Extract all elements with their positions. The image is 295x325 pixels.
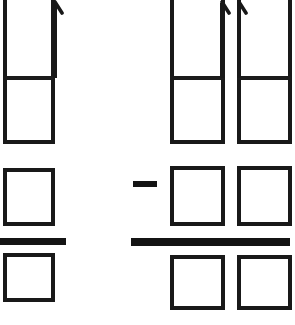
blank-box-right-col1-top[interactable] — [172, 0, 223, 78]
blank-box-left-col1-fourth[interactable] — [5, 255, 53, 300]
blank-box-right-col1-second[interactable] — [172, 78, 223, 142]
diagram-canvas — [0, 0, 295, 325]
blank-box-right-col1-third[interactable] — [172, 168, 223, 224]
left-group — [0, 0, 66, 300]
blank-box-left-col1-top[interactable] — [5, 0, 53, 78]
right-fraction-bar — [131, 238, 290, 246]
blank-box-left-col1-second[interactable] — [5, 78, 53, 142]
minus-sign-icon — [133, 181, 157, 187]
up-arrow-right-col1 — [222, 2, 229, 78]
right-column-1 — [170, 0, 229, 308]
right-column-2 — [237, 0, 291, 308]
expression-diagram-svg — [0, 0, 295, 325]
left-fraction-bar — [0, 238, 66, 245]
blank-box-right-col1-fourth[interactable] — [172, 257, 223, 308]
blank-box-right-col2-second[interactable] — [239, 78, 290, 142]
right-group — [131, 0, 291, 308]
blank-box-left-col1-third[interactable] — [5, 170, 53, 224]
blank-box-right-col2-fourth[interactable] — [239, 257, 290, 308]
blank-box-right-col2-third[interactable] — [239, 168, 290, 224]
up-arrow-left-col1 — [55, 2, 62, 78]
minus-operator — [133, 181, 157, 187]
